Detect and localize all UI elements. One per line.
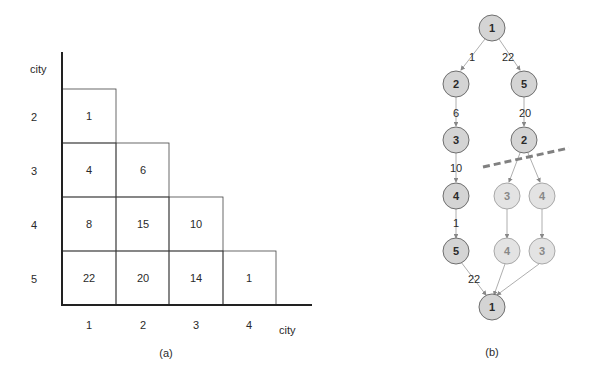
cell: 1 bbox=[86, 110, 92, 122]
cell: 1 bbox=[246, 272, 252, 284]
node-label: 3 bbox=[453, 134, 459, 146]
edge-weight: 22 bbox=[502, 51, 514, 63]
node-label: 1 bbox=[489, 301, 495, 313]
caption-a: (a) bbox=[159, 347, 172, 359]
y-axis-label: city bbox=[30, 63, 47, 75]
cell: 14 bbox=[190, 272, 202, 284]
node-label: 3 bbox=[539, 245, 545, 257]
figure: city city 2 3 4 5 1 2 3 4 1 4 6 8 15 10 … bbox=[0, 0, 594, 379]
node-label: 2 bbox=[521, 134, 527, 146]
edge-weight: 22 bbox=[468, 273, 480, 285]
col-label: 4 bbox=[246, 319, 252, 331]
cell: 22 bbox=[83, 272, 95, 284]
cell: 15 bbox=[137, 218, 149, 230]
search-tree-panel: 1 2 5 3 2 4 3 4 5 4 3 1 1 22 6 20 10 1 2… bbox=[443, 15, 569, 358]
col-label: 3 bbox=[193, 319, 199, 331]
distance-matrix-panel: city city 2 3 4 5 1 2 3 4 1 4 6 8 15 10 … bbox=[30, 52, 312, 359]
row-label: 5 bbox=[31, 273, 37, 285]
edge-weight: 1 bbox=[469, 51, 475, 63]
edge-weight: 1 bbox=[453, 217, 459, 229]
cell: 6 bbox=[140, 164, 146, 176]
col-label: 1 bbox=[86, 319, 92, 331]
node-label: 2 bbox=[453, 78, 459, 90]
node-label: 4 bbox=[539, 190, 546, 202]
col-label: 2 bbox=[140, 319, 146, 331]
cell: 8 bbox=[86, 218, 92, 230]
edge-weight: 10 bbox=[450, 162, 462, 174]
node-label: 1 bbox=[489, 22, 495, 34]
node-label: 4 bbox=[504, 245, 511, 257]
caption-b: (b) bbox=[485, 346, 498, 358]
cell: 20 bbox=[137, 272, 149, 284]
x-axis-label: city bbox=[279, 324, 296, 336]
edge-weight: 6 bbox=[453, 107, 459, 119]
row-label: 2 bbox=[31, 111, 37, 123]
edge-weight: 20 bbox=[519, 107, 531, 119]
node-label: 3 bbox=[504, 190, 510, 202]
node-label: 5 bbox=[453, 245, 459, 257]
node-label: 4 bbox=[453, 190, 460, 202]
row-label: 4 bbox=[31, 219, 37, 231]
row-label: 3 bbox=[31, 165, 37, 177]
cell: 10 bbox=[190, 218, 202, 230]
cell: 4 bbox=[86, 164, 92, 176]
node-label: 5 bbox=[521, 78, 527, 90]
col-labels: 1 2 3 4 bbox=[86, 319, 252, 331]
row-labels: 2 3 4 5 bbox=[31, 111, 37, 285]
